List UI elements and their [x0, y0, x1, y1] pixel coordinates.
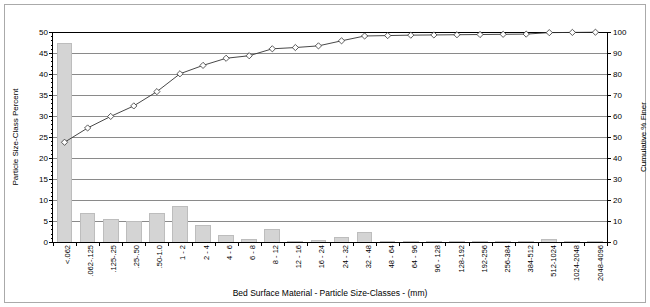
x-axis-label-cell: 12 - 16: [284, 245, 307, 287]
x-axis-category-label: .50-1.0: [156, 245, 164, 268]
y-axis-left-tick-label: 20: [26, 154, 48, 163]
x-axis-category-label: 12 - 16: [295, 245, 303, 268]
y-axis-left-minor-tick: [51, 66, 53, 67]
x-axis-category-label: 32 - 48: [365, 245, 373, 268]
bar-cell: [215, 32, 238, 242]
x-axis-label-cell: .50-1.0: [145, 245, 168, 287]
x-axis-category-label: 24 - 32: [342, 245, 350, 268]
bar-cell: [76, 32, 99, 242]
bar-cell: [53, 32, 76, 242]
bar-cell: [376, 32, 399, 242]
bar: [57, 43, 73, 243]
y-axis-left-tick-label: 35: [26, 91, 48, 100]
y-axis-right-tick: [607, 116, 611, 117]
x-axis-label-cell: <.062: [52, 245, 75, 287]
bar: [564, 241, 580, 242]
y-axis-left-minor-tick: [51, 204, 53, 205]
bar: [126, 221, 142, 242]
x-axis-label-cell: 128-192: [446, 245, 469, 287]
y-axis-left-minor-tick: [51, 196, 53, 197]
y-axis-right-tick: [607, 200, 611, 201]
y-axis-left-tick: [49, 179, 53, 180]
y-axis-left-minor-tick: [51, 154, 53, 155]
bar: [587, 241, 603, 242]
x-axis-category-label: 384-512: [527, 245, 535, 273]
y-axis-left-minor-tick: [51, 175, 53, 176]
y-axis-left-tick: [49, 95, 53, 96]
bar-cell: [445, 32, 468, 242]
y-axis-left-minor-tick: [51, 45, 53, 46]
bar: [172, 206, 188, 242]
y-axis-left-tick-label: 10: [26, 196, 48, 205]
x-axis-label-cell: 24 - 32: [330, 245, 353, 287]
bar-cell: [422, 32, 445, 242]
y-axis-left-minor-tick: [51, 112, 53, 113]
y-axis-left-tick-label: 5: [26, 217, 48, 226]
bar: [241, 239, 257, 242]
y-axis-left-minor-tick: [51, 108, 53, 109]
y-axis-left-tick: [49, 221, 53, 222]
y-axis-left-minor-tick: [51, 238, 53, 239]
bar: [80, 213, 96, 242]
x-axis-title: Bed Surface Material - Particle Size-Cla…: [52, 288, 608, 298]
bar: [380, 241, 396, 242]
bar-cell: [307, 32, 330, 242]
bar-cell: [491, 32, 514, 242]
y-axis-right-title: Cumulative % Finer: [639, 102, 648, 172]
bar-cell: [99, 32, 122, 242]
bar: [403, 241, 419, 242]
bar: [334, 237, 350, 242]
bar: [195, 225, 211, 242]
y-axis-left-minor-tick: [51, 133, 53, 134]
y-axis-left-minor-tick: [51, 87, 53, 88]
bar-cell: [284, 32, 307, 242]
bar: [218, 235, 234, 242]
y-axis-right-tick-label: 40: [613, 154, 637, 163]
y-axis-right-tick-label: 20: [613, 196, 637, 205]
x-axis-label-cell: 2 - 4: [191, 245, 214, 287]
x-axis-label-cell: 4 - 6: [214, 245, 237, 287]
y-axis-left-minor-tick: [51, 78, 53, 79]
bar-cell: [191, 32, 214, 242]
x-axis-category-label: 1024-2048: [573, 245, 581, 281]
y-axis-left-minor-tick: [51, 183, 53, 184]
y-axis-left-minor-tick: [51, 124, 53, 125]
bar-cell: [353, 32, 376, 242]
bar: [426, 241, 442, 242]
y-axis-left-minor-tick: [51, 192, 53, 193]
x-axis-label-cell: .125-.25: [98, 245, 121, 287]
x-axis-label-cell: .25-.50: [122, 245, 145, 287]
y-axis-right-tick: [607, 32, 611, 33]
x-axis-label-cell: 48 - 64: [376, 245, 399, 287]
y-axis-left-minor-tick: [51, 217, 53, 218]
x-axis-label-cell: 6 - 8: [237, 245, 260, 287]
y-axis-left-minor-tick: [51, 57, 53, 58]
y-axis-left-minor-tick: [51, 36, 53, 37]
y-axis-left-tick: [49, 116, 53, 117]
y-axis-left-tick-label: 45: [26, 49, 48, 58]
y-axis-left-tick: [49, 53, 53, 54]
x-axis-category-label: 96 - 128: [434, 245, 442, 273]
bar-cell: [515, 32, 538, 242]
x-axis-category-label: 2 - 4: [203, 245, 211, 260]
bar: [495, 241, 511, 242]
x-axis-label-cell: 192-256: [469, 245, 492, 287]
y-axis-left-minor-tick: [51, 225, 53, 226]
x-axis-category-label: 2048-4096: [597, 245, 605, 281]
y-axis-left-tick: [49, 32, 53, 33]
bar-cell: [261, 32, 284, 242]
y-axis-left-tick-label: 50: [26, 28, 48, 37]
y-axis-left-tick: [49, 200, 53, 201]
bar: [149, 213, 165, 242]
x-axis-label-cell: 16 - 24: [307, 245, 330, 287]
x-axis-label-cell: 64 - 96: [400, 245, 423, 287]
y-axis-left-minor-tick: [51, 61, 53, 62]
y-axis-right-tick-label: 100: [613, 28, 637, 37]
bar-cell: [168, 32, 191, 242]
y-axis-left-minor-tick: [51, 213, 53, 214]
y-axis-right-tick-label: 0: [613, 238, 637, 247]
y-axis-left-tick: [49, 137, 53, 138]
bar-cell: [122, 32, 145, 242]
y-axis-right-tick: [607, 221, 611, 222]
x-axis-label-cell: 32 - 48: [353, 245, 376, 287]
